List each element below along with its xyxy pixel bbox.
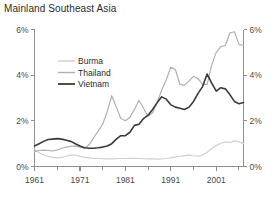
y-axis-left-tick-label: 2% <box>16 116 29 126</box>
y-axis-left-tick-label: 0% <box>16 162 29 172</box>
y-axis-right-tick-label: 2% <box>250 116 263 126</box>
x-axis-tick-label: 1971 <box>70 175 89 185</box>
y-axis-right: 0%2%4%6% <box>244 25 263 172</box>
chart-legend: BurmaThailandVietnam <box>58 56 111 89</box>
y-axis-right-tick-label: 6% <box>250 25 263 35</box>
x-axis-tick-label: 2001 <box>207 175 226 185</box>
legend-label-burma: Burma <box>78 56 103 66</box>
chart-container: Mainland Southeast Asia 0%2%4%6% 0%2%4%6… <box>0 0 278 199</box>
series-line-vietnam <box>35 74 244 148</box>
x-axis-tick-label: 1981 <box>116 175 135 185</box>
y-axis-right-tick-label: 4% <box>250 70 263 80</box>
data-series-group <box>35 32 244 159</box>
y-axis-right-tick-label: 0% <box>250 162 263 172</box>
series-line-thailand <box>35 32 244 152</box>
series-line-burma <box>35 141 244 159</box>
x-axis-tick-label: 1991 <box>161 175 180 185</box>
chart-plot-area: 0%2%4%6% 0%2%4%6% 19611971198119912001 B… <box>0 0 278 199</box>
x-axis: 19611971198119912001 <box>25 167 243 185</box>
y-axis-left-tick-label: 4% <box>16 70 29 80</box>
legend-label-vietnam: Vietnam <box>78 79 109 89</box>
y-axis-left: 0%2%4%6% <box>16 25 34 172</box>
x-axis-tick-label: 1961 <box>25 175 44 185</box>
legend-label-thailand: Thailand <box>78 68 111 78</box>
y-axis-left-tick-label: 6% <box>16 25 29 35</box>
